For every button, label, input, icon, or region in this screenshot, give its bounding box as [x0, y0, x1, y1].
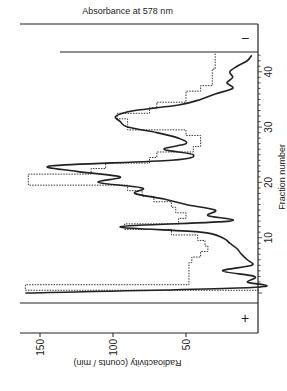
- x-axis-label: Fraction number: [277, 144, 287, 210]
- radioactivity-histogram: [25, 52, 259, 290]
- y-tick-label: 100: [108, 339, 119, 356]
- anode-plus-marker: +: [241, 310, 249, 326]
- plot-frame: [20, 24, 258, 333]
- y-tick-label: 150: [35, 339, 46, 356]
- x-tick-label: 40: [263, 66, 274, 78]
- y-axis-label: Radioactivity (counts / min): [74, 358, 182, 368]
- chart-svg: 10203040 50100150 Fraction number Radioa…: [0, 0, 287, 391]
- x-tick-label: 30: [263, 121, 274, 133]
- chart-figure: 10203040 50100150 Fraction number Radioa…: [0, 0, 287, 391]
- y2-axis-label: Absorbance at 578 nm: [82, 6, 173, 16]
- x-axis-ticks: 10203040: [258, 55, 274, 293]
- y-tick-label: 50: [181, 339, 192, 351]
- cathode-minus-marker: −: [241, 30, 249, 46]
- x-tick-label: 20: [263, 176, 274, 188]
- y-axis-ticks: 50100150: [35, 333, 192, 356]
- x-tick-label: 10: [263, 232, 274, 244]
